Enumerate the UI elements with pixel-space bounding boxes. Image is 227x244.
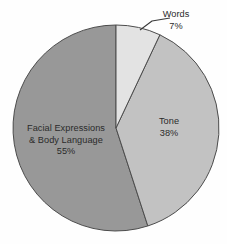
pie-chart: Words 7% Tone 38% Facial Expressions & B… xyxy=(0,0,227,244)
words-callout-leader-line xyxy=(140,18,170,30)
pie-chart-canvas xyxy=(0,0,227,244)
